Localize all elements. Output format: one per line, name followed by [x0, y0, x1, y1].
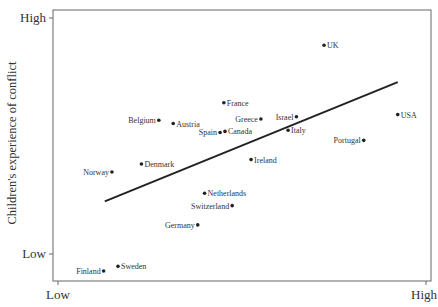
x-tick-label-low: Low [46, 287, 70, 302]
point-label: Greece [235, 115, 258, 124]
data-point-netherlands: Netherlands [203, 189, 246, 198]
data-point-uk: UK [322, 41, 339, 50]
point-marker [362, 139, 366, 143]
data-point-denmark: Denmark [140, 160, 175, 169]
data-point-usa: USA [396, 111, 417, 120]
point-marker [396, 113, 400, 117]
data-point-italy: Italy [286, 126, 305, 135]
point-marker [249, 158, 253, 162]
point-marker [102, 269, 106, 273]
point-marker [110, 170, 114, 174]
point-marker [140, 162, 144, 166]
point-marker [230, 204, 234, 208]
data-points: UKFranceBelgiumAustriaGreeceIsraelItalyS… [76, 41, 417, 276]
point-label: Canada [228, 127, 252, 136]
point-label: Portugal [334, 136, 362, 145]
point-label: Austria [176, 120, 200, 129]
point-marker [203, 191, 207, 195]
point-label: Israel [276, 113, 295, 122]
data-point-france: France [222, 99, 249, 108]
point-label: Belgium [128, 116, 156, 125]
data-point-switzerland: Switzerland [191, 202, 234, 211]
point-marker [322, 43, 326, 47]
y-tick-label-high: High [20, 10, 47, 25]
point-label: Ireland [254, 156, 277, 165]
point-marker [218, 131, 222, 135]
point-label: Finland [76, 267, 100, 276]
data-point-portugal: Portugal [334, 136, 366, 145]
data-point-finland: Finland [76, 267, 105, 276]
point-label: France [227, 99, 249, 108]
point-label: Spain [199, 128, 217, 137]
data-point-sweden: Sweden [116, 262, 146, 271]
point-marker [286, 129, 290, 133]
point-marker [223, 130, 227, 134]
point-marker [196, 223, 200, 227]
point-label: Netherlands [208, 189, 247, 198]
data-point-ireland: Ireland [249, 156, 276, 165]
point-label: UK [327, 41, 339, 50]
point-label: Italy [291, 126, 306, 135]
y-axis-label: Children's experience of conflict [5, 61, 19, 224]
point-marker [171, 122, 175, 126]
data-point-canada: Canada [223, 127, 252, 136]
point-label: Denmark [144, 160, 174, 169]
point-marker [116, 265, 120, 269]
point-marker [295, 115, 299, 119]
point-marker [222, 101, 226, 105]
data-point-greece: Greece [235, 115, 262, 124]
y-tick-label-low: Low [22, 246, 46, 261]
data-point-austria: Austria [171, 120, 200, 129]
point-marker [259, 117, 263, 121]
point-label: Sweden [121, 262, 146, 271]
point-label: Switzerland [191, 202, 229, 211]
data-point-germany: Germany [165, 221, 200, 230]
data-point-belgium: Belgium [128, 116, 160, 125]
x-tick-label-high: High [411, 287, 438, 302]
data-point-israel: Israel [276, 113, 299, 122]
data-point-norway: Norway [83, 168, 114, 177]
point-label: Germany [165, 221, 195, 230]
point-label: Norway [83, 168, 109, 177]
point-label: USA [401, 111, 417, 120]
point-marker [157, 118, 161, 122]
data-point-spain: Spain [199, 128, 222, 137]
scatter-chart: High Low Low High Children's experience … [0, 0, 438, 307]
